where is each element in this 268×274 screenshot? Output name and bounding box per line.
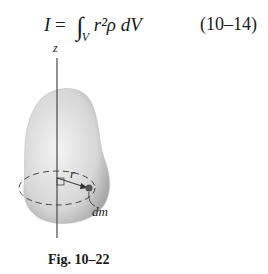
rigid-body-figure: z r dm — [0, 0, 268, 274]
z-axis-label: z — [52, 41, 58, 55]
mass-element — [86, 185, 93, 192]
figure-caption: Fig. 10–22 — [48, 252, 109, 268]
dm-label: dm — [92, 204, 108, 219]
